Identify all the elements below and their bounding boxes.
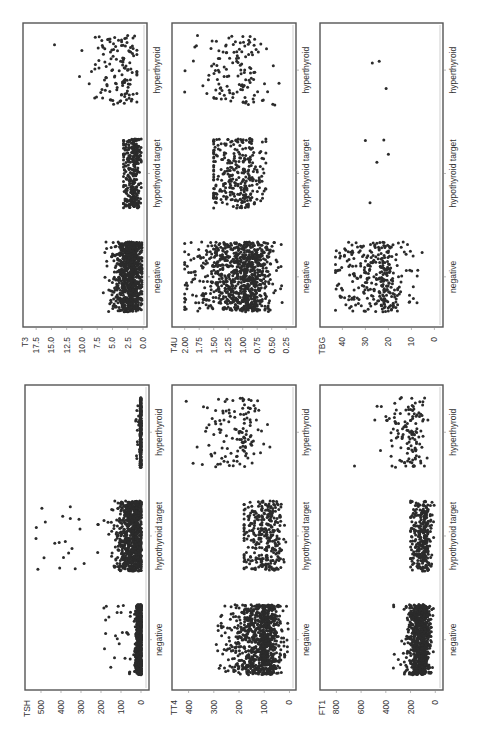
category-label: negative (152, 261, 162, 293)
axis-tick-label: 0 (136, 700, 146, 705)
axis-tick-label: 200 (406, 700, 416, 714)
category-label: hyperthyroid (154, 409, 164, 456)
axis-tick-label: 1.00 (238, 337, 248, 354)
panel-tsh: 0100200300400500TSHnegativehypothyroid t… (22, 385, 164, 717)
axis-tick-label: 300 (76, 700, 86, 714)
panel-t4u: 0.250.500.751.001.251.501.752.00T4Unegat… (169, 23, 311, 354)
axis-tick-label: 0.25 (281, 337, 291, 354)
category-label: negative (448, 623, 458, 655)
axis-tick-label: 0.0 (138, 337, 148, 349)
category-label: hyperthyroid (448, 46, 458, 93)
panel-t3: 0.02.55.07.510.012.515.017.5T3negativehy… (20, 23, 162, 354)
axis-title: FT1 (317, 700, 327, 715)
category-label: hypothyroid target (448, 139, 458, 208)
axis-tick-label: 200 (96, 700, 106, 714)
category-label: negative (301, 623, 311, 655)
axis-title: T3 (20, 337, 30, 347)
axis-tick-label: 400 (56, 700, 66, 714)
axis-tick-label: 0 (430, 700, 440, 705)
axis-tick-label: 600 (356, 700, 366, 714)
axis-tick-label: 20 (383, 337, 393, 347)
axis-tick-label: 100 (259, 700, 269, 714)
category-label: hypothyroid target (154, 501, 164, 570)
axis-tick-label: 1.25 (223, 337, 233, 354)
category-label: hypothyroid target (301, 139, 311, 208)
axis-title: TSH (22, 700, 32, 717)
axis-tick-label: 17.5 (31, 337, 41, 354)
axis-tick-label: 100 (116, 700, 126, 714)
category-label: negative (448, 261, 458, 293)
category-label: hypothyroid target (152, 139, 162, 208)
axis-tick-label: 5.0 (107, 337, 117, 349)
axis-tick-label: 1.50 (209, 337, 219, 354)
category-label: hyperthyroid (152, 46, 162, 93)
axis-tick-label: 12.5 (62, 337, 72, 354)
category-label: hyperthyroid (301, 46, 311, 93)
panel-tbg: 010203040TBGnegativehypothyroid targethy… (317, 23, 458, 354)
axis-tick-label: 2.00 (180, 337, 190, 354)
axis-tick-label: 7.5 (92, 337, 102, 349)
axis-title: TBG (317, 337, 327, 354)
axis-tick-label: 2.5 (123, 337, 133, 349)
axis-tick-label: 15.0 (46, 337, 56, 354)
category-label: hyperthyroid (448, 409, 458, 456)
panel-tt4: 0100200300400TT4negativehypothyroid targ… (169, 385, 311, 715)
axis-title: T4U (169, 337, 179, 353)
axis-tick-label: 0 (284, 700, 294, 705)
axis-tick-label: 400 (381, 700, 391, 714)
category-label: hyperthyroid (301, 409, 311, 456)
axis-tick-label: 40 (337, 337, 347, 347)
axis-tick-label: 0.50 (267, 337, 277, 354)
axis-tick-label: 0.75 (252, 337, 262, 354)
axis-tick-label: 10.0 (77, 337, 87, 354)
series-hypothyroid-target (122, 138, 143, 210)
category-label: negative (301, 261, 311, 293)
axis-tick-label: 200 (234, 700, 244, 714)
strip-plot-figure: 0.02.55.07.510.012.515.017.5T3negativehy… (0, 0, 477, 748)
axis-tick-label: 10 (406, 337, 416, 347)
axis-tick-label: 300 (209, 700, 219, 714)
category-label: hypothyroid target (301, 501, 311, 570)
axis-tick-label: 400 (184, 700, 194, 714)
category-label: negative (154, 623, 164, 655)
axis-tick-label: 0 (429, 337, 439, 342)
axis-tick-label: 800 (331, 700, 341, 714)
panel-fti: 0200400600800FT1negativehypothyroid targ… (317, 385, 458, 715)
axis-tick-label: 1.75 (194, 337, 204, 354)
category-label: hypothyroid target (448, 501, 458, 570)
axis-title: TT4 (169, 700, 179, 715)
axis-tick-label: 500 (36, 700, 46, 714)
axis-tick-label: 30 (360, 337, 370, 347)
